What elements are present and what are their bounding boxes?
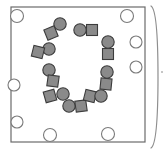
hole-right-middle bbox=[130, 61, 142, 73]
hole-top-left bbox=[11, 10, 24, 23]
ring-circle-7 bbox=[101, 66, 113, 78]
hole-bottom-left bbox=[44, 129, 57, 142]
hole-left-lower bbox=[11, 116, 23, 128]
ring-circle-4 bbox=[57, 88, 69, 100]
hole-left-middle bbox=[8, 79, 20, 91]
ring-square-9 bbox=[87, 25, 98, 36]
ring-square-3 bbox=[47, 75, 59, 87]
hole-right-upper bbox=[130, 36, 142, 48]
ring-square-2 bbox=[31, 45, 44, 58]
ring-circle-6 bbox=[95, 90, 107, 102]
ring-circle-8 bbox=[102, 36, 114, 48]
hole-top-right bbox=[121, 10, 134, 23]
ring-square-7 bbox=[100, 78, 112, 90]
figure-svg bbox=[0, 0, 163, 154]
hole-bottom-right bbox=[102, 128, 115, 141]
ring-circle-9 bbox=[74, 24, 86, 36]
figure-canvas bbox=[0, 0, 163, 154]
ring-circle-5 bbox=[63, 100, 75, 112]
ring-square-4 bbox=[43, 89, 57, 103]
ring-circle-1 bbox=[54, 18, 66, 30]
ring-square-5 bbox=[75, 100, 87, 112]
ring-square-8 bbox=[103, 49, 114, 60]
